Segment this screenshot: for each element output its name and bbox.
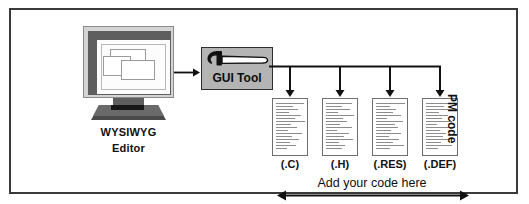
pm-code-group-label: PM code xyxy=(445,94,461,164)
output-document-0[interactable] xyxy=(272,98,308,156)
monitor-bezel xyxy=(88,31,171,95)
output-document-label-2: (.RES) xyxy=(367,158,413,170)
diagram-frame: WYSIWYG Editor GUI Tool xyxy=(9,8,518,194)
output-document-2[interactable] xyxy=(372,98,408,156)
screen-window-3 xyxy=(121,60,155,80)
monitor-base-lip xyxy=(91,116,166,120)
monitor-screen xyxy=(97,40,170,94)
monitor-base-slot xyxy=(111,105,144,110)
editor-label-line1: WYSIWYG xyxy=(83,126,174,138)
wysiwyg-editor-node: WYSIWYG Editor xyxy=(83,26,179,154)
output-document-1[interactable] xyxy=(322,98,358,156)
document-text-lines xyxy=(326,103,356,151)
pm-code-text: PM code xyxy=(445,94,459,143)
document-text-lines xyxy=(376,103,406,151)
gui-tool-node[interactable]: GUI Tool xyxy=(201,47,273,90)
crt-monitor-icon xyxy=(83,26,174,98)
editor-label-line2: Editor xyxy=(83,142,174,154)
document-text-lines xyxy=(276,103,306,151)
output-document-label-1: (.H) xyxy=(317,158,363,170)
output-document-label-0: (.C) xyxy=(267,158,313,170)
hammer-icon xyxy=(206,50,270,71)
diagram-canvas: WYSIWYG Editor GUI Tool xyxy=(0,0,529,204)
gui-tool-label: GUI Tool xyxy=(202,71,272,85)
arrow-right-icon xyxy=(174,68,200,77)
output-branch-connectors xyxy=(269,64,459,98)
add-code-label: Add your code here xyxy=(287,176,457,190)
monitor-neck xyxy=(113,98,144,105)
double-arrow-icon xyxy=(277,190,469,201)
